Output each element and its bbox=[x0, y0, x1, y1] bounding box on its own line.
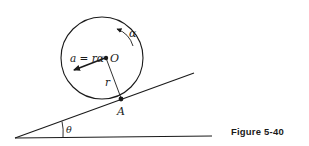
center-point bbox=[104, 56, 108, 60]
rolling-disk-diagram: a = rα O α r A θ bbox=[0, 0, 309, 146]
figure-caption: Figure 5-40 bbox=[231, 126, 284, 137]
theta-arc bbox=[62, 122, 63, 138]
label-center-o: O bbox=[110, 52, 119, 65]
label-alpha: α bbox=[129, 27, 137, 40]
contact-point bbox=[119, 97, 124, 102]
ground-line bbox=[15, 136, 212, 138]
label-acceleration: a = rα bbox=[70, 52, 104, 64]
label-contact-a: A bbox=[116, 105, 125, 118]
label-radius: r bbox=[105, 76, 111, 88]
label-theta: θ bbox=[66, 124, 72, 135]
